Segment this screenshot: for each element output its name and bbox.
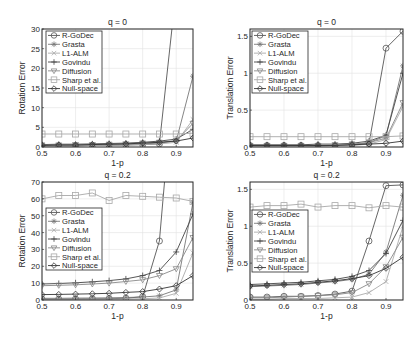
legend-label: Null-space xyxy=(268,263,304,272)
svg-text:50: 50 xyxy=(31,212,40,221)
svg-text:0.7: 0.7 xyxy=(312,149,324,158)
legend: R-GoDecGrastaL1-ALMGovinduDiffusionSharp… xyxy=(46,31,102,93)
chart-title: q = 0 xyxy=(108,17,127,27)
svg-text:70: 70 xyxy=(31,178,40,187)
legend: R-GoDecGrastaL1-ALMGovinduDiffusionSharp… xyxy=(252,210,308,272)
legend-label: Govindu xyxy=(268,237,296,246)
panel-translation-q02: 0.50.60.70.80.900.511.5 q = 0.2 1-p Tran… xyxy=(225,170,406,321)
svg-text:0.7: 0.7 xyxy=(104,149,116,158)
svg-text:0.8: 0.8 xyxy=(137,302,149,311)
svg-text:40: 40 xyxy=(31,229,40,238)
legend-label: Govindu xyxy=(62,235,90,244)
x-axis-label: 1-p xyxy=(111,158,124,168)
asterisk-marker-icon xyxy=(51,41,57,47)
legend-label: Sharp et al. xyxy=(62,253,101,262)
svg-text:10: 10 xyxy=(31,279,40,288)
svg-text:0.8: 0.8 xyxy=(346,149,358,158)
legend-label: Diffusion xyxy=(268,67,297,76)
svg-text:20: 20 xyxy=(31,64,40,73)
legend: R-GoDecGrastaL1-ALMGovinduDiffusionSharp… xyxy=(46,208,102,270)
y-axis-label: Rotation Error xyxy=(17,61,27,114)
asterisk-marker-icon xyxy=(51,218,57,224)
svg-text:0.6: 0.6 xyxy=(278,302,290,311)
legend-label: Null-space xyxy=(268,84,304,93)
svg-text:0.5: 0.5 xyxy=(237,106,249,115)
svg-text:0.8: 0.8 xyxy=(137,149,149,158)
svg-text:10: 10 xyxy=(31,104,40,113)
legend-label: Grasta xyxy=(268,40,292,49)
chart-title: q = 0.2 xyxy=(104,170,131,180)
y-axis-label: Rotation Error xyxy=(17,214,27,267)
svg-text:0: 0 xyxy=(36,296,41,305)
svg-text:0.6: 0.6 xyxy=(70,149,82,158)
legend-label: Null-space xyxy=(62,84,98,93)
legend-label: Grasta xyxy=(62,40,86,49)
svg-text:1: 1 xyxy=(244,222,249,231)
x-axis-label: 1-p xyxy=(320,158,333,168)
legend-label: Govindu xyxy=(62,58,90,67)
legend-label: Null-space xyxy=(62,261,98,270)
svg-text:5: 5 xyxy=(36,123,41,132)
svg-text:0.6: 0.6 xyxy=(70,302,82,311)
svg-text:30: 30 xyxy=(31,25,40,34)
legend-label: R-GoDec xyxy=(268,31,300,40)
svg-text:0.6: 0.6 xyxy=(278,149,290,158)
svg-text:0: 0 xyxy=(244,143,249,152)
figure: 0.50.60.70.80.9051015202530 q = 0 1-p Ro… xyxy=(0,0,419,338)
legend-label: Diffusion xyxy=(62,244,91,253)
svg-text:0.7: 0.7 xyxy=(104,302,116,311)
svg-text:20: 20 xyxy=(31,262,40,271)
svg-text:30: 30 xyxy=(31,245,40,254)
y-axis-label: Translation Error xyxy=(225,209,235,272)
svg-text:0.9: 0.9 xyxy=(380,149,392,158)
legend-label: Diffusion xyxy=(268,246,297,255)
legend-label: L1-ALM xyxy=(62,226,89,235)
svg-text:0.9: 0.9 xyxy=(171,149,183,158)
y-axis-label: Translation Error xyxy=(225,56,235,119)
legend-label: Govindu xyxy=(268,58,296,67)
legend-label: L1-ALM xyxy=(268,49,295,58)
svg-text:0.7: 0.7 xyxy=(312,302,324,311)
svg-text:0: 0 xyxy=(244,296,249,305)
svg-text:1.5: 1.5 xyxy=(237,32,249,41)
chart-title: q = 0.2 xyxy=(313,170,340,180)
svg-text:15: 15 xyxy=(31,84,40,93)
svg-text:25: 25 xyxy=(31,45,40,54)
legend-label: L1-ALM xyxy=(62,49,89,58)
asterisk-marker-icon xyxy=(257,220,263,226)
legend-label: Sharp et al. xyxy=(268,76,307,85)
legend-label: R-GoDec xyxy=(62,31,94,40)
svg-text:0.9: 0.9 xyxy=(380,302,392,311)
legend-label: Grasta xyxy=(268,219,292,228)
svg-text:0.5: 0.5 xyxy=(237,259,249,268)
panel-translation-q0: 0.50.60.70.80.900.511.5 q = 0 1-p Transl… xyxy=(225,17,406,168)
panel-rotation-q0: 0.50.60.70.80.9051015202530 q = 0 1-p Ro… xyxy=(17,0,196,168)
svg-text:1: 1 xyxy=(244,69,249,78)
legend-label: R-GoDec xyxy=(268,210,300,219)
svg-text:0: 0 xyxy=(36,143,41,152)
asterisk-marker-icon xyxy=(257,41,263,47)
svg-text:0.9: 0.9 xyxy=(171,302,183,311)
legend-label: R-GoDec xyxy=(62,208,94,217)
legend-label: Grasta xyxy=(62,217,86,226)
legend-label: L1-ALM xyxy=(268,228,295,237)
svg-text:0.8: 0.8 xyxy=(346,302,358,311)
chart-title: q = 0 xyxy=(317,17,336,27)
x-axis-label: 1-p xyxy=(320,311,333,321)
svg-text:60: 60 xyxy=(31,195,40,204)
legend: R-GoDecGrastaL1-ALMGovinduDiffusionSharp… xyxy=(252,31,308,93)
legend-label: Sharp et al. xyxy=(268,255,307,264)
svg-text:1.5: 1.5 xyxy=(237,185,249,194)
x-axis-label: 1-p xyxy=(111,311,124,321)
legend-label: Diffusion xyxy=(62,67,91,76)
legend-label: Sharp et al. xyxy=(62,76,101,85)
